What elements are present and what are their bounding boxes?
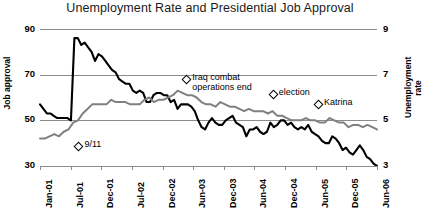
chart-title: Unemployment Rate and Presidential Job A… <box>0 1 420 15</box>
annotation-label: election <box>279 87 310 97</box>
x-tick-mark <box>71 166 72 170</box>
x-tick-label: Dec-03 <box>228 178 238 208</box>
x-tick-mark <box>193 166 194 170</box>
x-tick-label: Jan-01 <box>44 179 54 208</box>
x-tick-label: Jun-03 <box>197 179 207 208</box>
x-tick-label: Jul-01 <box>75 182 85 208</box>
x-tick-mark <box>101 166 102 170</box>
x-tick-mark <box>40 166 41 170</box>
x-tick-mark <box>377 166 378 170</box>
x-tick-label: Dec-04 <box>289 178 299 208</box>
x-tick-label: Jul-02 <box>136 182 146 208</box>
annotation-label: 9/11 <box>84 139 101 149</box>
y-tick-left-90: 90 <box>0 24 35 34</box>
x-tick-label: Dec-05 <box>350 178 360 208</box>
annotation-label: Iraq combatoperations end <box>192 72 252 92</box>
y-tick-left-30: 30 <box>0 160 35 170</box>
x-tick-mark <box>224 166 225 170</box>
y-tick-right-7: 7 <box>383 69 423 79</box>
x-tick-label: Jun-06 <box>381 179 391 208</box>
annotation-label: Katrina <box>324 97 353 107</box>
y-tick-right-5: 5 <box>383 114 423 124</box>
x-tick-mark <box>163 166 164 170</box>
x-tick-label: Jun-04 <box>258 179 268 208</box>
x-tick-mark <box>285 166 286 170</box>
x-tick-mark <box>316 166 317 170</box>
x-tick-label: Dec-01 <box>105 178 115 208</box>
y-tick-right-3: 3 <box>383 160 423 170</box>
x-tick-mark <box>346 166 347 170</box>
x-tick-mark <box>132 166 133 170</box>
y-tick-left-50: 50 <box>0 114 35 124</box>
x-tick-label: Jun-05 <box>320 179 330 208</box>
y-tick-right-9: 9 <box>383 24 423 34</box>
x-tick-label: Dec-02 <box>167 178 177 208</box>
y-axis-label-left: Job approval <box>2 53 12 113</box>
y-axis-label-right: Unemployment rate <box>403 58 423 118</box>
y-tick-left-70: 70 <box>0 69 35 79</box>
x-axis-line <box>40 166 377 167</box>
x-tick-mark <box>254 166 255 170</box>
